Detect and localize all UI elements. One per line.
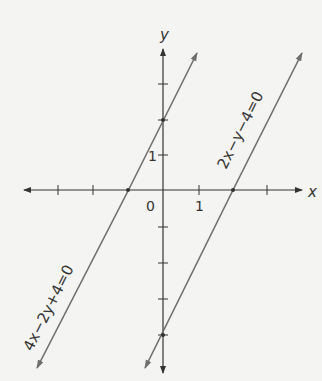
y-tick-label-1: 1: [148, 148, 157, 164]
line-2x-y-4-lower: [145, 190, 233, 368]
x-axis-label: x: [307, 183, 317, 201]
coordinate-plane: y x 0 1 1 2x−y−4=0 4x−2y+4=0: [0, 0, 322, 381]
line-4x-2y+4-lower: [37, 191, 128, 368]
origin-label: 0: [146, 198, 155, 214]
y-axis-label: y: [159, 26, 170, 44]
equation-label-2x-y-4: 2x−y−4=0: [213, 89, 267, 172]
equation-label-4x-2y+4: 4x−2y+4=0: [19, 262, 77, 354]
x-tick-label-1: 1: [195, 198, 204, 214]
